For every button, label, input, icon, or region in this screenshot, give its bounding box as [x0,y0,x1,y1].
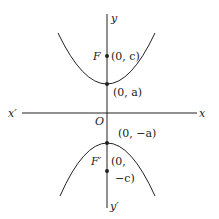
origin-label: O [95,115,104,128]
focus-f-prime-coord-2: −c) [115,172,135,185]
focus-f-coord: (0, c) [111,50,140,63]
y-axis-label: y [110,12,118,25]
vertex-neg-a-coord: (0, −a) [118,127,156,140]
hyperbola-diagram: y x′ x O y′ F (0, c) (0, a) (0, −a) F′ (… [0,0,219,219]
vertex-a-coord: (0, a) [113,86,142,99]
vertex-neg-a-point [105,141,109,145]
x-neg-axis-label: x′ [8,107,17,120]
focus-f-label: F [92,50,101,63]
focus-f-prime-coord-1: (0, [111,155,126,168]
vertex-a-point [105,82,109,86]
y-neg-axis-label: y′ [109,200,119,213]
focus-f-prime-point [105,169,109,173]
focus-f-prime-label: F′ [90,155,102,168]
x-axis-label: x [199,107,206,120]
focus-f-point [105,54,109,58]
